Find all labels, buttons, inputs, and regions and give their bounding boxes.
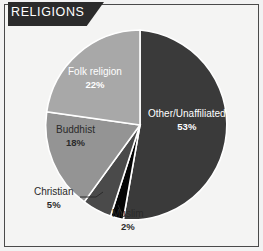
slice-label-name: Muslim	[112, 208, 144, 221]
slice-label-value: 2%	[112, 221, 144, 233]
slice-label-name: Folk religion	[68, 66, 122, 79]
slice-label-folk-religion: Folk religion 22%	[68, 66, 122, 90]
slice-label-name: Other/Unaffiliated	[148, 108, 226, 121]
slice-label-value: 18%	[56, 137, 95, 149]
slice-label-muslim: Muslim 2%	[112, 208, 144, 232]
slice-label-value: 53%	[148, 121, 226, 133]
slice-label-value: 5%	[34, 199, 73, 211]
slice-label-other-unaffiliated: Other/Unaffiliated 53%	[148, 108, 226, 132]
slice-label-buddhist: Buddhist 18%	[56, 124, 95, 148]
religions-pie-figure: RELIGIONS Other/Unaffiliated 53% Folk re…	[0, 0, 263, 251]
slice-label-name: Christian	[34, 186, 73, 199]
slice-label-christian: Christian 5%	[34, 186, 73, 210]
slice-label-value: 22%	[68, 79, 122, 91]
page-title: RELIGIONS	[11, 5, 84, 19]
slice-label-name: Buddhist	[56, 124, 95, 137]
